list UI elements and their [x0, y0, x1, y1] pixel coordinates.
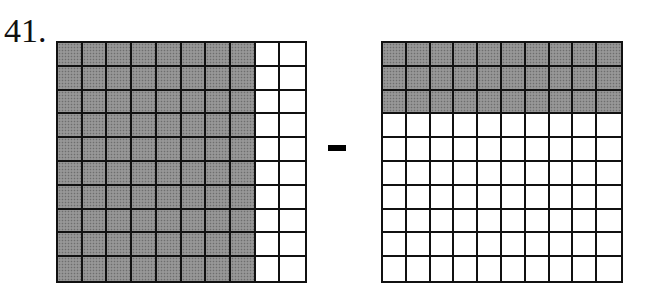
empty-square	[407, 114, 431, 138]
empty-square	[407, 138, 431, 162]
shaded-square	[550, 43, 574, 67]
shaded-square	[157, 186, 182, 210]
shaded-square	[157, 162, 182, 186]
shaded-square	[132, 43, 157, 67]
empty-square	[431, 257, 455, 281]
minus-sign	[328, 145, 346, 151]
empty-square	[383, 210, 407, 234]
shaded-square	[182, 114, 207, 138]
empty-square	[407, 162, 431, 186]
empty-square	[280, 257, 305, 281]
shaded-square	[58, 138, 83, 162]
empty-square	[383, 138, 407, 162]
shaded-square	[206, 162, 231, 186]
shaded-square	[182, 257, 207, 281]
shaded-square	[182, 91, 207, 115]
shaded-square	[132, 91, 157, 115]
empty-square	[431, 210, 455, 234]
shaded-square	[407, 67, 431, 91]
shaded-square	[157, 257, 182, 281]
empty-square	[478, 210, 502, 234]
empty-square	[550, 257, 574, 281]
empty-square	[280, 186, 305, 210]
empty-square	[502, 186, 526, 210]
empty-square	[573, 114, 597, 138]
empty-square	[454, 138, 478, 162]
shaded-square	[206, 233, 231, 257]
shaded-square	[407, 43, 431, 67]
empty-square	[597, 162, 621, 186]
shaded-square	[58, 43, 83, 67]
shaded-square	[107, 233, 132, 257]
empty-square	[256, 162, 281, 186]
shaded-square	[83, 138, 108, 162]
shaded-square	[182, 233, 207, 257]
empty-square	[454, 257, 478, 281]
shaded-square	[231, 43, 256, 67]
shaded-square	[526, 43, 550, 67]
empty-square	[454, 233, 478, 257]
empty-square	[597, 233, 621, 257]
shaded-square	[502, 91, 526, 115]
shaded-square	[83, 186, 108, 210]
empty-square	[454, 210, 478, 234]
shaded-square	[597, 43, 621, 67]
shaded-square	[206, 43, 231, 67]
shaded-square	[83, 162, 108, 186]
empty-square	[526, 162, 550, 186]
empty-square	[573, 162, 597, 186]
empty-square	[502, 138, 526, 162]
empty-square	[454, 114, 478, 138]
empty-square	[526, 257, 550, 281]
shaded-square	[383, 67, 407, 91]
empty-square	[256, 186, 281, 210]
shaded-square	[132, 257, 157, 281]
empty-square	[256, 91, 281, 115]
empty-square	[573, 233, 597, 257]
shaded-square	[132, 210, 157, 234]
empty-square	[280, 114, 305, 138]
empty-square	[431, 114, 455, 138]
shaded-square	[182, 138, 207, 162]
shaded-square	[132, 114, 157, 138]
empty-square	[573, 186, 597, 210]
empty-square	[431, 162, 455, 186]
empty-square	[256, 138, 281, 162]
empty-square	[280, 67, 305, 91]
empty-square	[550, 233, 574, 257]
empty-square	[550, 114, 574, 138]
shaded-square	[550, 67, 574, 91]
shaded-square	[58, 67, 83, 91]
empty-square	[573, 138, 597, 162]
shaded-square	[431, 91, 455, 115]
shaded-square	[83, 67, 108, 91]
shaded-square	[454, 67, 478, 91]
shaded-square	[231, 233, 256, 257]
empty-square	[383, 257, 407, 281]
shaded-square	[157, 91, 182, 115]
empty-square	[280, 210, 305, 234]
shaded-square	[107, 257, 132, 281]
empty-square	[502, 114, 526, 138]
empty-square	[280, 233, 305, 257]
empty-square	[478, 138, 502, 162]
shaded-square	[107, 162, 132, 186]
shaded-square	[383, 43, 407, 67]
empty-square	[280, 138, 305, 162]
empty-square	[431, 186, 455, 210]
shaded-square	[58, 114, 83, 138]
empty-square	[478, 186, 502, 210]
shaded-square	[83, 91, 108, 115]
empty-square	[256, 114, 281, 138]
shaded-square	[231, 162, 256, 186]
hundred-grid-right	[381, 41, 623, 283]
shaded-square	[526, 67, 550, 91]
empty-square	[478, 162, 502, 186]
shaded-square	[132, 162, 157, 186]
empty-square	[256, 257, 281, 281]
empty-square	[526, 114, 550, 138]
shaded-square	[573, 91, 597, 115]
empty-square	[502, 162, 526, 186]
empty-square	[526, 233, 550, 257]
empty-square	[407, 210, 431, 234]
